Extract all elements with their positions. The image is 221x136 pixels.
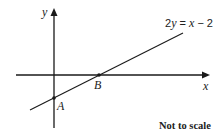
not-to-scale-note: Not to scale xyxy=(159,121,211,132)
point-b-label: B xyxy=(94,79,101,91)
y-axis-arrow-icon xyxy=(51,8,58,16)
x-axis-arrow-icon xyxy=(202,72,210,79)
coordinate-diagram: y x A B 2y = x − 2 Not to scale xyxy=(0,0,221,136)
equation-equals: = xyxy=(176,17,189,29)
y-axis-label: y xyxy=(42,6,47,18)
point-a-marker xyxy=(52,96,56,100)
equation-constant: − 2 xyxy=(194,17,213,29)
point-b-marker xyxy=(97,73,101,77)
point-a-label: A xyxy=(57,100,64,112)
x-axis-label: x xyxy=(203,80,208,92)
line-equation-label: 2y = x − 2 xyxy=(165,17,213,29)
